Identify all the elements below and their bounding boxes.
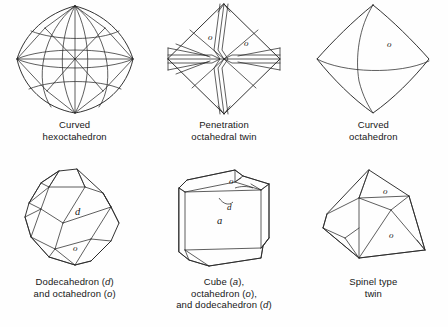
face-label-o-lower: o <box>389 230 394 240</box>
spinel-twin-drawing: o o <box>313 166 433 272</box>
figure-row-bottom: d o Dodecahedron (d) and octahedron (o) <box>0 163 448 326</box>
caption-cube: Cube (a), octahedron (o), and dodecahedr… <box>176 276 272 311</box>
dodecahedron-drawing: d o <box>15 165 135 273</box>
caption-line: hexoctahedron <box>43 131 107 143</box>
caption-line: and dodecahedron (d) <box>176 299 272 311</box>
figure-canvas-hexoctahedron <box>0 0 149 118</box>
spinel-twin-lower-pyramid <box>323 198 425 258</box>
spinel-twin-outline <box>323 170 425 258</box>
dodecahedron-facets <box>25 169 119 265</box>
caption-text: octahedron ( <box>191 288 246 299</box>
curved-octahedron-meridian <box>358 5 373 113</box>
caption-dodecahedron-octahedron: Dodecahedron (d) and octahedron (o) <box>34 276 116 299</box>
caption-line: twin <box>349 288 397 300</box>
caption-spinel-twin: Spinel type twin <box>349 276 397 299</box>
caption-text: and dodecahedron ( <box>176 299 263 310</box>
figure-canvas-penetration-twin: o o <box>149 0 298 118</box>
caption-line: Curved <box>43 119 107 131</box>
face-label-o: o <box>387 39 392 49</box>
figure-row-top: Curved hexoctahedron <box>0 0 448 163</box>
hexoctahedron-radials <box>17 6 133 113</box>
face-label-o-left: o <box>208 32 213 42</box>
penetration-twin-drawing: o o <box>162 0 286 118</box>
figure-canvas-spinel-twin: o o <box>299 163 448 275</box>
spinel-twin-upper-pyramid <box>323 170 425 250</box>
caption-line: Dodecahedron (d) <box>34 276 116 288</box>
figure-cube-octahedron-dodecahedron: o d a Cube (a), octahedron (o), and dode… <box>149 163 298 326</box>
face-label-d: d <box>227 202 232 212</box>
caption-line: and octahedron (o) <box>34 288 116 300</box>
cube-drawing: o d a <box>165 166 283 272</box>
cube-leader-lines <box>219 187 253 205</box>
caption-line: Penetration <box>191 119 256 131</box>
caption-line: Spinel type <box>349 276 397 288</box>
figure-dodecahedron-octahedron: d o Dodecahedron (d) and octahedron (o) <box>0 163 149 326</box>
curved-hexoctahedron-drawing <box>7 1 143 117</box>
caption-text: Cube ( <box>204 276 233 287</box>
cube-bottom-bevel <box>179 238 269 266</box>
face-label-a: a <box>217 215 222 226</box>
caption-text: ) <box>112 288 115 299</box>
face-label-d: d <box>75 206 81 217</box>
cube-front-face <box>179 184 269 260</box>
caption-text: ) <box>268 299 271 310</box>
figure-canvas-cube: o d a <box>149 163 298 275</box>
face-label-o: o <box>73 243 78 253</box>
caption-text: ), <box>238 276 244 287</box>
figure-curved-octahedron: o Curved octahedron <box>299 0 448 163</box>
face-label-o-upper: o <box>383 186 388 196</box>
crystal-forms-plate: Curved hexoctahedron <box>0 0 448 327</box>
caption-line: octahedral twin <box>191 131 256 143</box>
spinel-twin-right-facet <box>409 196 425 250</box>
cube-top-face <box>179 170 269 192</box>
figure-curved-hexoctahedron: Curved hexoctahedron <box>0 0 149 163</box>
curved-octahedron-equator <box>317 59 429 71</box>
figure-canvas-dodecahedron: d o <box>0 163 149 275</box>
caption-text: Dodecahedron ( <box>36 276 106 287</box>
caption-line: octahedron (o), <box>176 288 272 300</box>
curved-octahedron-drawing: o <box>313 1 433 117</box>
caption-curved-hexoctahedron: Curved hexoctahedron <box>43 119 107 142</box>
caption-line: Curved <box>349 119 398 131</box>
face-label-o-right: o <box>244 38 249 48</box>
caption-text: ) <box>110 276 113 287</box>
caption-text: ), <box>251 288 257 299</box>
caption-line: Cube (a), <box>176 276 272 288</box>
figure-canvas-curved-octahedron: o <box>299 0 448 118</box>
figure-spinel-type-twin: o o Spinel type twin <box>299 163 448 326</box>
curved-octahedron-outline <box>317 5 429 113</box>
face-label-o: o <box>229 176 234 186</box>
caption-line: octahedron <box>349 131 398 143</box>
caption-text: and octahedron ( <box>34 288 107 299</box>
caption-curved-octahedron: Curved octahedron <box>349 119 398 142</box>
caption-penetration-twin: Penetration octahedral twin <box>191 119 256 142</box>
figure-penetration-octahedral-twin: o o Penetration octahedral twin <box>149 0 298 163</box>
